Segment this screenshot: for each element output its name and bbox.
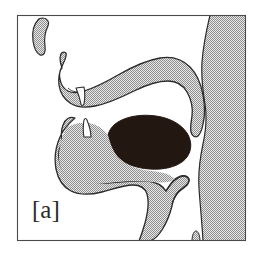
panel-label: [a] <box>32 196 60 223</box>
vocal-tract-figure: [a] <box>0 0 264 262</box>
vocal-tract-svg: [a] <box>0 0 264 262</box>
pharyngeal-wall-shape <box>199 15 246 241</box>
